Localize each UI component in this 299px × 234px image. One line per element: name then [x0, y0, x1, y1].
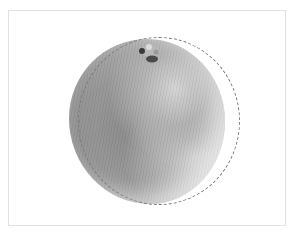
orange-stem-icon [133, 41, 165, 67]
